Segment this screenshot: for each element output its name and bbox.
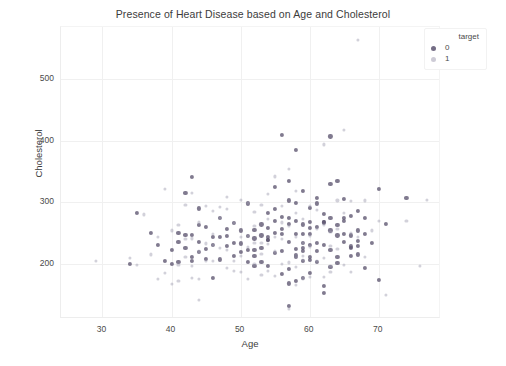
data-point — [335, 255, 339, 259]
data-point — [253, 241, 256, 244]
data-point — [308, 220, 312, 224]
data-point — [377, 220, 380, 223]
data-point — [321, 291, 325, 295]
data-point — [204, 247, 208, 251]
data-point — [328, 182, 332, 186]
data-point — [163, 188, 166, 191]
data-point — [218, 246, 221, 249]
data-point — [370, 241, 374, 245]
data-point — [225, 266, 228, 269]
data-point — [273, 219, 277, 223]
data-point — [176, 231, 180, 235]
data-point — [280, 237, 283, 240]
data-point — [225, 234, 229, 238]
data-point — [259, 233, 263, 237]
data-point — [336, 199, 339, 202]
data-point — [287, 261, 290, 264]
data-point — [287, 167, 290, 170]
data-point — [267, 193, 270, 196]
data-point — [225, 249, 228, 252]
data-point — [149, 253, 152, 256]
data-point — [301, 222, 305, 226]
data-point — [184, 204, 187, 207]
data-point — [211, 209, 214, 212]
legend-item[interactable]: 0 — [430, 43, 480, 53]
data-point — [294, 211, 297, 214]
data-point — [190, 175, 194, 179]
y-tick-label: 300 — [8, 196, 54, 206]
data-point — [191, 276, 194, 279]
data-point — [225, 196, 228, 199]
data-point — [342, 232, 346, 236]
data-point — [343, 263, 346, 266]
data-point — [169, 247, 173, 251]
data-point — [211, 235, 215, 239]
data-point — [294, 189, 297, 192]
data-point — [287, 308, 290, 311]
data-point — [259, 246, 263, 250]
data-point — [135, 211, 139, 215]
data-point — [329, 230, 332, 233]
data-point — [384, 293, 387, 296]
data-point — [363, 216, 367, 220]
legend: target 01 — [424, 28, 487, 70]
data-point — [204, 260, 207, 263]
data-point — [211, 276, 215, 280]
data-point — [287, 198, 291, 202]
data-point — [329, 270, 332, 273]
data-point — [308, 271, 312, 275]
data-point — [356, 244, 360, 248]
data-point — [301, 231, 305, 235]
data-point — [163, 271, 166, 274]
data-point — [197, 206, 201, 210]
data-point — [343, 212, 346, 215]
data-point — [335, 233, 339, 237]
data-point — [266, 211, 270, 215]
data-point — [239, 255, 242, 258]
data-point — [322, 276, 325, 279]
data-point — [239, 228, 243, 232]
data-point — [363, 255, 366, 258]
data-point — [94, 260, 97, 263]
data-point — [260, 252, 263, 255]
data-point — [135, 263, 138, 266]
data-point — [253, 210, 256, 213]
data-point — [204, 204, 207, 207]
data-point — [342, 197, 346, 201]
data-point — [308, 245, 311, 248]
data-point — [239, 271, 242, 274]
data-point — [322, 223, 325, 226]
legend-label: 0 — [445, 43, 449, 53]
data-point — [335, 223, 339, 227]
data-point — [321, 243, 325, 247]
data-point — [405, 220, 408, 223]
data-point — [197, 240, 201, 244]
data-point — [356, 239, 360, 243]
data-point — [419, 264, 422, 267]
legend-item[interactable]: 1 — [430, 54, 480, 64]
data-point — [322, 257, 325, 260]
data-point — [232, 269, 235, 272]
data-point — [267, 269, 270, 272]
data-point — [225, 244, 229, 248]
data-point — [287, 266, 291, 270]
data-point — [301, 217, 304, 220]
data-point — [335, 261, 339, 265]
data-point — [142, 213, 145, 216]
data-point — [183, 246, 187, 250]
data-point — [336, 228, 339, 231]
data-point — [315, 249, 319, 253]
data-point — [177, 223, 180, 226]
data-point — [170, 229, 173, 232]
data-point — [308, 226, 312, 230]
data-point — [273, 207, 277, 211]
data-point — [308, 258, 312, 262]
data-point — [294, 247, 298, 251]
data-point — [356, 228, 360, 232]
data-point — [191, 237, 194, 240]
data-point — [315, 228, 318, 231]
y-tick-label: 200 — [8, 258, 54, 268]
data-point — [169, 262, 173, 266]
data-point — [239, 236, 242, 239]
data-point — [349, 246, 353, 250]
